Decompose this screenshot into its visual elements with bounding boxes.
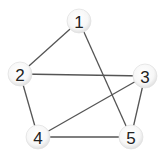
node-label: 4 xyxy=(33,129,42,148)
edge-1-5 xyxy=(79,21,131,137)
graph-diagram: 12345 xyxy=(0,0,168,160)
node-label: 1 xyxy=(74,13,83,32)
node-2: 2 xyxy=(8,62,32,86)
nodes-layer: 12345 xyxy=(8,9,157,149)
node-label: 2 xyxy=(15,66,24,85)
node-label: 5 xyxy=(126,129,135,148)
node-3: 3 xyxy=(133,64,157,88)
node-1: 1 xyxy=(67,9,91,33)
edge-2-3 xyxy=(20,74,145,76)
node-5: 5 xyxy=(119,125,143,149)
node-4: 4 xyxy=(26,125,50,149)
node-label: 3 xyxy=(140,68,149,87)
edges-layer xyxy=(20,21,145,137)
